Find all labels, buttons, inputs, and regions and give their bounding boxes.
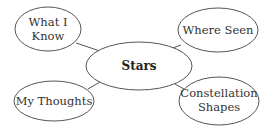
node-label-line-1: Constellation <box>180 86 258 100</box>
node-constellation-shapes: Constellation Shapes <box>179 77 259 125</box>
connector-bottom-left <box>88 82 100 89</box>
concept-web-diagram: Stars What I Know Where Seen My Thoughts… <box>0 0 275 127</box>
node-label-line-2: Shapes <box>198 100 240 114</box>
node-where-seen: Where Seen <box>178 8 258 52</box>
node-what-i-know: What I Know <box>15 7 81 51</box>
node-label: My Thoughts <box>16 94 93 108</box>
center-node: Stars <box>86 42 192 90</box>
node-label-line-1: What I <box>29 15 68 29</box>
node-label-line-2: Know <box>32 29 65 43</box>
center-label: Stars <box>121 59 156 73</box>
node-my-thoughts: My Thoughts <box>14 81 94 121</box>
connector-top-left <box>76 43 100 51</box>
node-label: Where Seen <box>183 23 254 37</box>
